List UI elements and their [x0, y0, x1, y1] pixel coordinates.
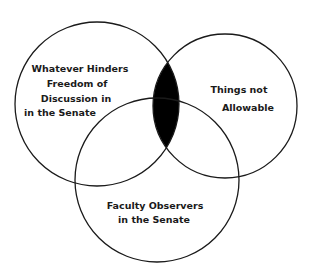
label-bottom: Faculty Observers in the Senate	[107, 200, 204, 225]
svg-text:Things not: Things not	[211, 84, 268, 95]
svg-text:in the Senate: in the Senate	[24, 107, 96, 118]
svg-text:Whatever Hinders: Whatever Hinders	[32, 63, 129, 74]
venn-diagram: Whatever Hinders Freedom of Discussion i…	[0, 0, 311, 278]
svg-text:Freedom of: Freedom of	[47, 78, 109, 89]
svg-text:Discussion in: Discussion in	[41, 93, 112, 104]
label-left: Whatever Hinders Freedom of Discussion i…	[24, 63, 129, 118]
svg-text:Faculty Observers: Faculty Observers	[107, 200, 204, 211]
svg-text:in the Senate: in the Senate	[118, 214, 190, 225]
svg-text:Allowable: Allowable	[222, 102, 274, 113]
label-right: Things not Allowable	[211, 84, 274, 113]
